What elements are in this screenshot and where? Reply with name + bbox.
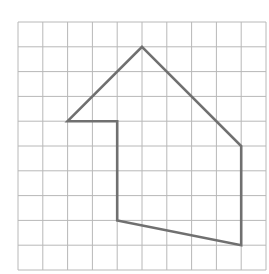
- grid-diagram: [0, 0, 269, 274]
- square-grid: [18, 22, 266, 270]
